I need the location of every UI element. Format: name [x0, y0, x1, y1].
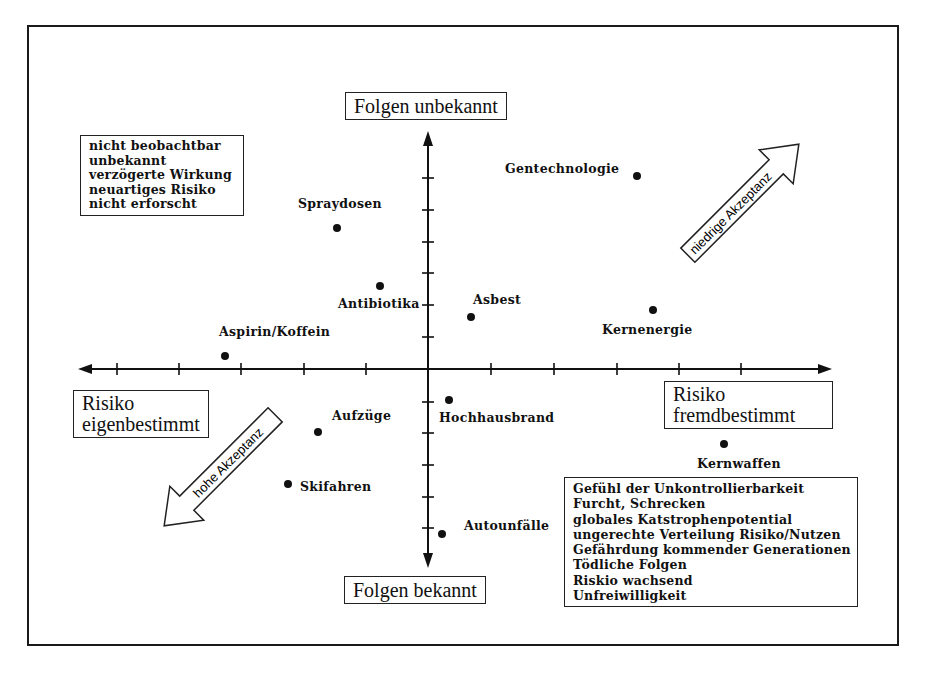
axis-label-top: Folgen unbekannt: [345, 92, 507, 120]
axis-label-right-line2: fremdbestimmt: [673, 405, 824, 426]
dread-characteristics-box: Gefühl der Unkontrollierbarkeit Furcht, …: [564, 477, 858, 607]
dread-item: ungerechte Verteilung Risiko/Nutzen: [573, 527, 849, 542]
dread-item: Gefühl der Unkontrollierbarkeit: [573, 481, 849, 496]
label-kernenergie: Kernenergie: [602, 322, 693, 337]
axis-label-right: Risiko fremdbestimmt: [664, 381, 833, 429]
low-acceptance-arrow: niedrige Akzeptanz: [671, 127, 816, 272]
unknown-item: unbekannt: [89, 154, 235, 169]
axis-label-left-line1: Risiko: [82, 393, 200, 414]
label-gentechnologie: Gentechnologie: [505, 161, 619, 176]
axis-label-left-line2: eigenbestimmt: [82, 414, 200, 435]
point-kernwaffen: [720, 440, 728, 448]
dread-item: Furcht, Schrecken: [573, 496, 849, 511]
point-aufzuege: [314, 428, 322, 436]
axis-label-bottom-text: Folgen bekannt: [353, 579, 477, 601]
point-aspirin-koffein: [221, 352, 229, 360]
dread-item: Riskio wachsend: [573, 573, 849, 588]
point-antibiotika: [376, 282, 384, 290]
point-skifahren: [284, 480, 292, 488]
dread-item: globales Katstrophenpotential: [573, 512, 849, 527]
point-hochhausbrand: [445, 396, 453, 404]
unknown-item: neuartiges Risiko: [89, 183, 235, 198]
label-autounfaelle: Autounfälle: [464, 518, 549, 533]
label-aufzuege: Aufzüge: [332, 408, 391, 423]
point-gentechnologie: [633, 172, 641, 180]
axis-label-bottom: Folgen bekannt: [344, 576, 486, 604]
label-hochhausbrand: Hochhausbrand: [439, 410, 554, 425]
label-kernwaffen: Kernwaffen: [697, 456, 781, 471]
unknown-characteristics-box: nicht beobachtbar unbekannt verzögerte W…: [80, 135, 244, 216]
axis-label-top-text: Folgen unbekannt: [354, 95, 498, 117]
low-acceptance-label: niedrige Akzeptanz: [686, 169, 774, 257]
dread-item: Tödliche Folgen: [573, 557, 849, 572]
label-antibiotika: Antibiotika: [338, 296, 420, 311]
axis-label-right-line1: Risiko: [673, 384, 824, 405]
dread-item: Gefährdung kommender Generationen: [573, 542, 849, 557]
label-aspirin-koffein: Aspirin/Koffein: [219, 324, 330, 339]
label-asbest: Asbest: [473, 292, 521, 307]
unknown-item: verzögerte Wirkung: [89, 168, 235, 183]
label-skifahren: Skifahren: [300, 479, 371, 494]
point-spraydosen: [333, 224, 341, 232]
point-kernenergie: [649, 306, 657, 314]
dread-item: Unfreiwilligkeit: [573, 588, 849, 603]
point-asbest: [467, 313, 475, 321]
unknown-item: nicht beobachtbar: [89, 139, 235, 154]
unknown-item: nicht erforscht: [89, 197, 235, 212]
label-spraydosen: Spraydosen: [298, 196, 382, 211]
point-autounfaelle: [438, 530, 446, 538]
axis-label-left: Risiko eigenbestimmt: [73, 390, 209, 438]
